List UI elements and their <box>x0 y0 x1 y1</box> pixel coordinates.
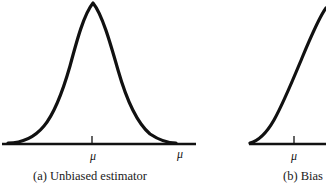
bell-curve-unbiased <box>8 3 176 143</box>
unbiased-distribution-plot <box>0 0 210 160</box>
panel-biased-estimator: μ (b) Bias <box>210 0 326 190</box>
axis-label-mu-a: μ <box>84 150 102 162</box>
caption-panel-a: (a) Unbiased estimator <box>33 170 147 184</box>
caption-panel-b: (b) Bias <box>283 170 323 184</box>
biased-distribution-plot <box>210 0 326 160</box>
bell-curve-biased <box>250 8 326 143</box>
mu-hat-glyph: ˆ μ <box>177 148 183 160</box>
estimator-bias-figure: μ ˆ μ (a) Unbiased estimator μ (b) Bias <box>0 0 326 190</box>
axis-label-mu-hat: ˆ μ <box>170 148 190 160</box>
axis-label-mu-b: μ <box>285 150 303 162</box>
circumflex-accent-icon: ˆ <box>178 142 182 153</box>
panel-unbiased-estimator: μ ˆ μ (a) Unbiased estimator <box>0 0 210 190</box>
